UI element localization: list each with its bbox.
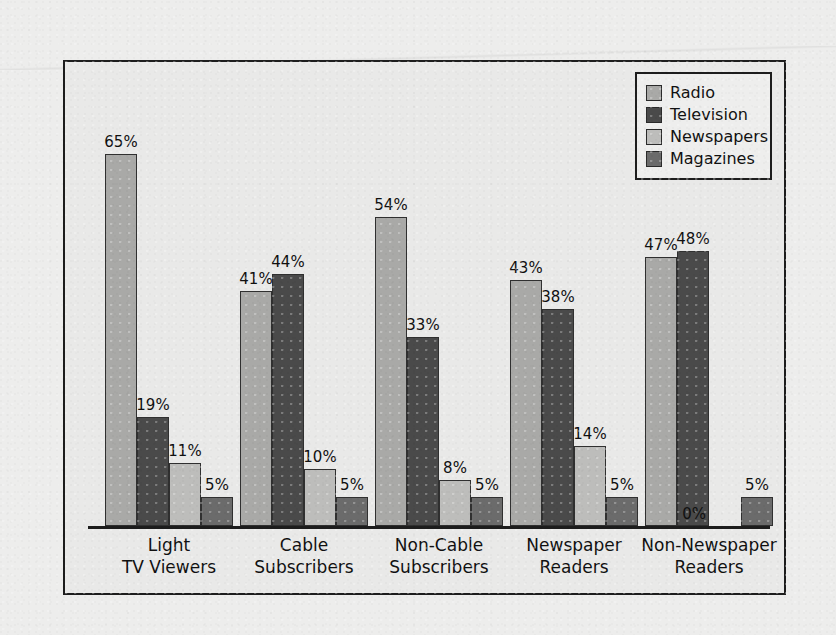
bar-value-label: 19%	[136, 398, 169, 413]
chart-frame: 65%19%11%5%41%44%10%5%54%33%8%5%43%38%14…	[63, 60, 786, 595]
bar-value-label: 33%	[406, 318, 439, 333]
chart-legend: Radio Television Newspapers Magazines	[635, 72, 772, 180]
bar[interactable]	[105, 154, 137, 526]
legend-label-radio: Radio	[670, 85, 715, 101]
legend-label-television: Television	[670, 107, 748, 123]
bar-value-label: 44%	[271, 255, 304, 270]
legend-item: Radio	[646, 82, 761, 104]
legend-swatch-television	[646, 107, 662, 123]
bar[interactable]	[606, 497, 638, 526]
bar-value-label: 5%	[340, 478, 364, 493]
bar-value-label: 41%	[239, 272, 272, 287]
category-axis-labels: LightTV ViewersCableSubscribersNon-Cable…	[88, 534, 770, 594]
legend-label-magazines: Magazines	[670, 151, 755, 167]
plot-area: 65%19%11%5%41%44%10%5%54%33%8%5%43%38%14…	[65, 62, 788, 597]
bar-group: 54%33%8%5%	[375, 62, 503, 526]
bar[interactable]	[471, 497, 503, 526]
legend-swatch-magazines	[646, 151, 662, 167]
bar[interactable]	[137, 417, 169, 526]
category-label-line: Readers	[627, 556, 791, 578]
bar[interactable]	[741, 497, 773, 526]
bar-value-label: 8%	[443, 461, 467, 476]
legend-item: Newspapers	[646, 126, 761, 148]
bar-value-label: 54%	[374, 198, 407, 213]
bar-value-label: 5%	[610, 478, 634, 493]
bar-group: 41%44%10%5%	[240, 62, 368, 526]
bar[interactable]	[169, 463, 201, 526]
x-axis-line	[88, 526, 770, 529]
bar-value-label: 5%	[475, 478, 499, 493]
bar[interactable]	[574, 446, 606, 526]
bar-value-label: 65%	[104, 135, 137, 150]
bar-value-label: 5%	[745, 478, 769, 493]
bar-value-label: 38%	[541, 290, 574, 305]
category-label: Non-NewspaperReaders	[627, 534, 791, 579]
legend-item: Television	[646, 104, 761, 126]
bar-value-label: 47%	[644, 238, 677, 253]
bar[interactable]	[304, 469, 336, 526]
bar-value-label: 14%	[573, 427, 606, 442]
legend-label-newspapers: Newspapers	[670, 129, 768, 145]
bar-value-label: 5%	[205, 478, 229, 493]
legend-item: Magazines	[646, 148, 761, 170]
bar-group: 43%38%14%5%	[510, 62, 638, 526]
bar-value-label: 10%	[303, 450, 336, 465]
bar[interactable]	[407, 337, 439, 526]
bar[interactable]	[439, 480, 471, 526]
bar-value-label: 43%	[509, 261, 542, 276]
legend-swatch-newspapers	[646, 129, 662, 145]
bar[interactable]	[677, 251, 709, 526]
bar[interactable]	[240, 291, 272, 526]
bar-group: 65%19%11%5%	[105, 62, 233, 526]
legend-swatch-radio	[646, 85, 662, 101]
bar-value-label: 11%	[168, 444, 201, 459]
bar[interactable]	[542, 309, 574, 526]
bar[interactable]	[375, 217, 407, 526]
bar-value-label: 0%	[682, 507, 706, 522]
bar[interactable]	[645, 257, 677, 526]
bar-value-label: 48%	[676, 232, 709, 247]
category-label-line: Non-Newspaper	[627, 534, 791, 556]
bar[interactable]	[510, 280, 542, 526]
bar[interactable]	[272, 274, 304, 526]
bar[interactable]	[336, 497, 368, 526]
bar[interactable]	[201, 497, 233, 526]
